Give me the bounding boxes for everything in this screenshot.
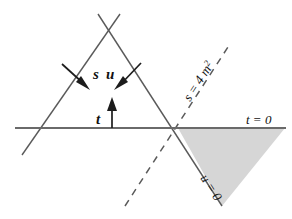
s-equals-4m2-label-main: s = 4 m <box>180 62 214 103</box>
s-equals-4m2-label: s = 4 m2 <box>180 58 217 103</box>
s-equals-4m2-label-group: s = 4 m2 <box>180 58 217 103</box>
s-arrow <box>62 64 90 90</box>
u-arrow <box>114 63 141 90</box>
t-channel-label: t <box>96 111 101 127</box>
s-channel-label: s <box>92 66 99 82</box>
t-equals-zero-label: t = 0 <box>246 112 272 127</box>
shaded-physical-region <box>178 128 285 206</box>
s-equals-zero-boundary-line <box>22 14 120 155</box>
u-channel-label: u <box>106 66 114 82</box>
mandelstam-plane-figure: s u t t = 0 u = 0 s = 4 m2 <box>0 0 292 219</box>
diagram-canvas: s u t t = 0 u = 0 s = 4 m2 <box>0 0 292 219</box>
t-arrow <box>107 97 117 128</box>
